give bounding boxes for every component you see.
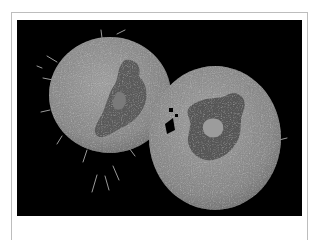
cells-illustration <box>17 20 302 216</box>
micrograph-image <box>17 20 302 216</box>
right-cell <box>149 66 281 210</box>
